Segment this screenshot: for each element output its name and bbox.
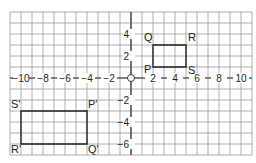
vertex-label: S [188, 64, 195, 76]
x-tick-label: −6 [59, 73, 71, 84]
x-tick-label: 4 [172, 73, 178, 84]
x-tick-label: −8 [37, 73, 49, 84]
y-tick-label: −2 [118, 95, 130, 106]
y-tick-label: −4 [118, 117, 130, 128]
x-tick-label: 10 [235, 73, 247, 84]
vertex-label: S' [11, 98, 20, 110]
vertex-label: R [188, 31, 196, 43]
vertex-label: P [144, 63, 151, 75]
coordinate-grid-diagram: −10−8−6−4−224681042−2−4−6 PQRSP'Q'R'S' [0, 0, 256, 163]
vertex-label: P' [88, 98, 97, 110]
grid-canvas: −10−8−6−4−224681042−2−4−6 PQRSP'Q'R'S' [0, 0, 256, 163]
x-tick-label: −2 [103, 73, 115, 84]
origin-marker [128, 75, 135, 82]
x-tick-label: −10 [13, 73, 30, 84]
shapes: PQRSP'Q'R'S' [11, 31, 196, 155]
vertex-label: Q' [88, 143, 99, 155]
y-tick-label: 2 [123, 51, 129, 62]
x-tick-label: −4 [81, 73, 93, 84]
vertex-label: R' [11, 143, 21, 155]
y-tick-label: −6 [118, 139, 130, 150]
vertex-label: Q [144, 31, 153, 43]
x-tick-label: 8 [216, 73, 222, 84]
y-tick-label: 4 [123, 29, 129, 40]
